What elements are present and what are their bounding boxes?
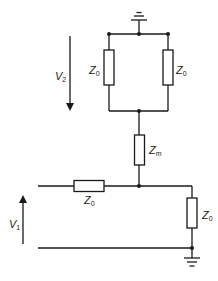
node-dot [107,32,111,36]
label-z0-shunt: Z0 [201,209,213,222]
node-dot [137,109,141,113]
resistor-z0-top-left [104,50,114,85]
bottom-ground-icon [184,248,200,266]
label-z0-series: Z0 [83,194,95,207]
circuit-diagram: V2 Z0 Z0 Zm Z0 Z0 V1 [0,0,218,281]
label-z0-top-right: Z0 [175,64,187,77]
node-dot [137,32,141,36]
label-v1: V1 [9,218,20,231]
label-v2: V2 [55,70,66,83]
label-zm: Zm [148,144,162,157]
resistor-z0-top-right [163,50,173,85]
node-dot [137,184,141,188]
node-dot [190,246,194,250]
resistor-z0-shunt [187,198,197,228]
node-dot [166,32,170,36]
label-z0-top-left: Z0 [88,64,100,77]
resistor-z0-series [74,181,104,192]
top-ground-icon [131,13,147,35]
resistor-zm [135,135,145,165]
